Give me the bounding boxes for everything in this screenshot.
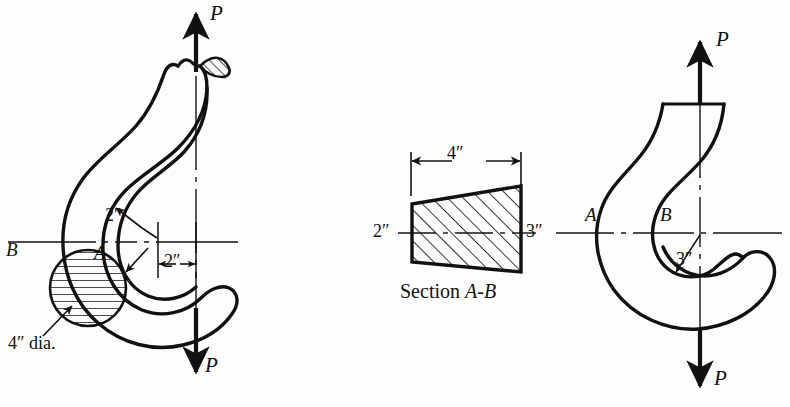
- left-shank-section-circle: [50, 250, 126, 326]
- left-point-a-label: A: [94, 243, 106, 262]
- left-hook-inner-contour: [118, 88, 207, 299]
- right-load-label-bottom: P: [714, 368, 727, 389]
- left-point-b-label: B: [6, 240, 18, 259]
- left-hook-view: [8, 14, 238, 372]
- left-load-label-top: P: [210, 3, 223, 24]
- left-load-label-bottom: P: [205, 355, 218, 376]
- hook-figure: P P B A 2″ 2″ 4″ dia. 4″ 2″ 3″ Section A…: [0, 0, 790, 407]
- left-inner-radius-dim: 2″: [105, 206, 122, 224]
- left-point-a-leader: [126, 248, 148, 272]
- right-radius-dim: 3″: [676, 250, 693, 268]
- section-caption-ab: A-B: [465, 280, 496, 302]
- section-caption: Section A-B: [400, 281, 496, 301]
- section-caption-prefix: Section: [400, 280, 465, 302]
- section-right-depth-label: 3″: [526, 222, 543, 240]
- section-width-label: 4″: [447, 144, 464, 162]
- right-point-b-label: B: [660, 205, 672, 224]
- right-load-label-top: P: [716, 29, 729, 50]
- section-left-depth-label: 2″: [373, 222, 390, 240]
- section-trapezoid: [412, 186, 521, 272]
- right-hook-view: [586, 42, 782, 386]
- right-point-a-label: A: [585, 205, 597, 224]
- shank-diameter-label: 4″ dia.: [8, 334, 56, 352]
- section-a-b-view: [398, 152, 586, 272]
- left-inner-radius-leader2: [142, 228, 157, 238]
- right-hook-outer-contour: [597, 104, 775, 329]
- left-offset-dim: 2″: [164, 252, 181, 270]
